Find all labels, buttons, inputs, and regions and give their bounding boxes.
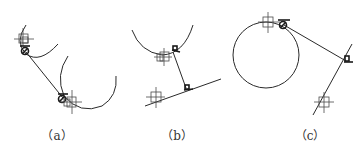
panel-a (14, 25, 116, 114)
crosshair-square-icon (154, 48, 172, 66)
caption-a: （a） (41, 126, 72, 143)
arc (132, 25, 193, 55)
tangent-line (26, 52, 63, 98)
circle (233, 22, 299, 88)
perpendicular-segment (173, 52, 186, 88)
crosshair-square-icon (314, 92, 334, 113)
tangent-segment (284, 25, 346, 61)
caption-c: （c） (295, 126, 326, 143)
perpendicular-icon (344, 56, 353, 62)
panel-b (132, 25, 221, 108)
panel-c (233, 12, 353, 115)
perpendicular-icon (184, 85, 193, 90)
arc-small (20, 25, 58, 57)
caption-b: （b） (161, 126, 193, 143)
crosshair-square-icon (14, 28, 34, 46)
arc-large (60, 56, 116, 109)
